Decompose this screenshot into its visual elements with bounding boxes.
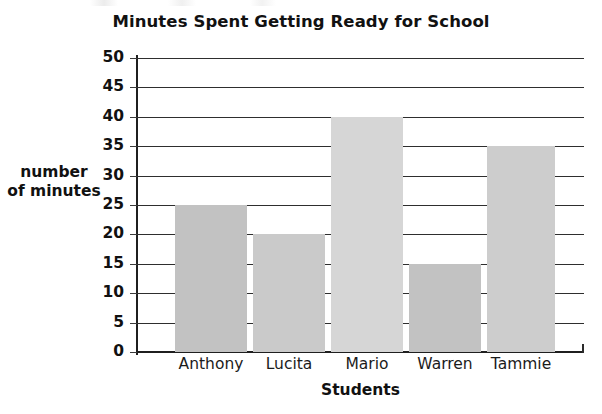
y-axis-tick-label: 25	[78, 197, 124, 213]
chart-title: Minutes Spent Getting Ready for School	[0, 12, 602, 31]
x-axis-category-label: Tammie	[481, 357, 561, 373]
bar-tammie	[487, 146, 555, 352]
y-axis-tick-label: 20	[78, 226, 124, 242]
x-axis-category-label: Warren	[403, 357, 487, 373]
x-axis-category-label: Mario	[325, 357, 409, 373]
y-axis-tick-label: 15	[78, 256, 124, 272]
y-axis-tick	[130, 352, 137, 353]
y-axis-tick	[130, 176, 137, 177]
y-axis-tick-label: 35	[78, 138, 124, 154]
y-axis-tick-label: 45	[78, 79, 124, 95]
bar-mario	[331, 117, 403, 352]
bar-warren	[409, 264, 481, 352]
y-axis-tick	[130, 117, 137, 118]
gridline	[137, 87, 584, 88]
gridline	[137, 58, 584, 59]
y-axis-tick-label: 10	[78, 285, 124, 301]
y-axis-tick-label: 40	[78, 109, 124, 125]
x-axis-label: Students	[137, 381, 584, 399]
y-axis-tick	[130, 146, 137, 147]
y-axis-tick	[130, 87, 137, 88]
bar-lucita	[253, 234, 325, 352]
x-axis-category-label: Lucita	[247, 357, 331, 373]
x-axis-category-label: Anthony	[169, 357, 253, 373]
y-axis-tick	[130, 293, 137, 294]
y-axis-tick	[130, 58, 137, 59]
gridline	[137, 352, 584, 353]
y-axis-tick-label: 0	[78, 344, 124, 360]
y-axis-tick-label: 50	[78, 50, 124, 66]
plot-area	[137, 58, 584, 352]
y-axis-tick-label: 30	[78, 168, 124, 184]
y-axis-tick	[130, 234, 137, 235]
y-axis-tick-label: 5	[78, 315, 124, 331]
bar-anthony	[175, 205, 247, 352]
y-axis-tick	[130, 205, 137, 206]
y-axis-tick	[130, 264, 137, 265]
scan-artifact	[0, 0, 602, 6]
y-axis-tick	[130, 323, 137, 324]
